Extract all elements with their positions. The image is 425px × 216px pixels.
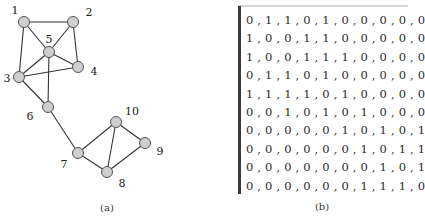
node-label-10: 10 xyxy=(125,105,139,118)
matrix-frame-top-border xyxy=(238,5,408,7)
edge-3-6 xyxy=(19,77,48,107)
node-4 xyxy=(73,62,84,73)
node-3 xyxy=(14,72,25,83)
caption-b: (b) xyxy=(315,201,329,212)
node-9 xyxy=(140,138,151,149)
node-7 xyxy=(73,148,84,159)
graph-drawing xyxy=(0,0,220,216)
matrix-row-2: 1 , 0 , 0 , 1 , 1 , 0 , 0 , 0 , 0 , 0 xyxy=(246,29,425,47)
node-label-5: 5 xyxy=(46,33,53,46)
edge-2-4 xyxy=(73,22,78,67)
node-label-1: 1 xyxy=(12,4,19,17)
edge-8-10 xyxy=(107,122,116,172)
node-label-3: 3 xyxy=(4,72,11,85)
node-2 xyxy=(68,17,79,28)
text-cursor-bar xyxy=(238,6,241,194)
node-8 xyxy=(102,167,113,178)
node-label-7: 7 xyxy=(61,158,68,171)
node-6 xyxy=(43,102,54,113)
matrix-rows: 0 , 1 , 1 , 0 , 1 , 0 , 0 , 0 , 0 , 0 1 … xyxy=(246,11,425,195)
node-label-8: 8 xyxy=(119,177,126,190)
node-label-2: 2 xyxy=(86,6,93,19)
edge-1-3 xyxy=(19,22,24,77)
edge-8-9 xyxy=(107,143,145,172)
node-5 xyxy=(44,47,55,58)
matrix-row-3: 1 , 0 , 0 , 1 , 1 , 1 , 0 , 0 , 0 , 0 xyxy=(246,48,425,66)
matrix-row-4: 0 , 1 , 1 , 0 , 1 , 0 , 0 , 0 , 0 , 0 xyxy=(246,66,425,84)
edge-5-6 xyxy=(48,52,49,107)
edge-6-7 xyxy=(48,107,78,153)
node-10 xyxy=(111,117,122,128)
matrix-row-6: 0 , 0 , 1 , 0 , 1 , 0 , 1 , 0 , 0 , 0 xyxy=(246,103,425,121)
node-label-9: 9 xyxy=(157,145,164,158)
matrix-row-5: 1 , 1 , 1 , 1 , 0 , 1 , 0 , 0 , 0 , 0 xyxy=(246,85,425,103)
matrix-row-9: 0 , 0 , 0 , 0 , 0 , 0 , 0 , 1 , 0 , 1 xyxy=(246,158,425,176)
node-1 xyxy=(19,17,30,28)
matrix-row-8: 0 , 0 , 0 , 0 , 0 , 0 , 1 , 0 , 1 , 1 xyxy=(246,140,425,158)
matrix-row-10: 0 , 0 , 0 , 0 , 0 , 0 , 1 , 1 , 1 , 0 xyxy=(246,177,425,195)
node-label-6: 6 xyxy=(27,110,34,123)
graph-panel: 12345678910 (a) xyxy=(0,0,220,216)
matrix-row-1: 0 , 1 , 1 , 0 , 1 , 0 , 0 , 0 , 0 , 0 xyxy=(246,11,425,29)
matrix-row-7: 0 , 0 , 0 , 0 , 0 , 1 , 0 , 1 , 0 , 1 xyxy=(246,121,425,139)
node-label-4: 4 xyxy=(91,65,98,78)
adjacency-matrix-panel: 0 , 1 , 1 , 0 , 1 , 0 , 0 , 0 , 0 , 0 1 … xyxy=(236,4,408,196)
edge-7-10 xyxy=(78,122,116,153)
caption-a: (a) xyxy=(100,202,114,213)
